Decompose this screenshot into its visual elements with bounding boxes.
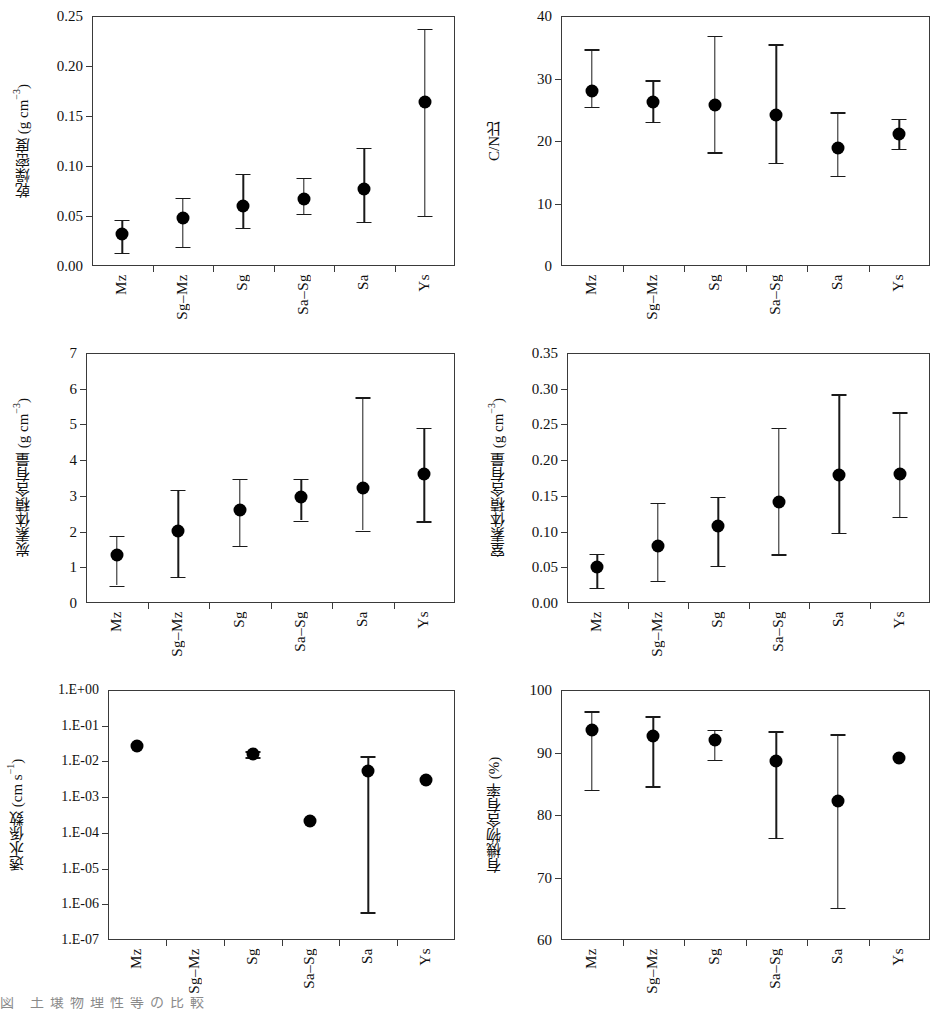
- data-point-marker: [831, 141, 844, 154]
- error-bar-cap-lower: [892, 149, 907, 150]
- error-bar-cap-lower: [769, 163, 784, 164]
- y-tick-label: 1.E-07: [61, 932, 99, 948]
- x-tick-mark: [166, 940, 167, 946]
- y-tick-label: 1.E-01: [61, 718, 99, 734]
- y-tick-label: 80: [537, 807, 552, 824]
- y-tick-mark: [102, 833, 108, 834]
- x-tick-label: Mz: [128, 948, 145, 969]
- error-bar-cap-lower: [355, 531, 370, 532]
- error-bar-cap-lower: [357, 222, 372, 223]
- error-bar-line: [837, 734, 838, 907]
- error-bar-cap-upper: [650, 503, 665, 504]
- x-tick-mark: [746, 266, 747, 272]
- x-tick-label: Sg: [706, 274, 723, 291]
- y-tick-mark: [102, 797, 108, 798]
- error-bar-cap-upper: [892, 412, 907, 413]
- y-axis-title: 有機物含有率 (%): [487, 690, 502, 940]
- y-tick-label: 0.15: [532, 487, 558, 504]
- x-tick-label: Sg: [231, 611, 248, 628]
- y-tick-label: 0: [70, 595, 78, 612]
- data-point-marker: [712, 519, 725, 532]
- error-bar-line: [776, 731, 777, 837]
- chart-panel-middle-right: 0.000.050.100.150.200.250.300.35窒素体積含有量 …: [475, 337, 950, 674]
- error-bar-line: [368, 756, 369, 912]
- error-bar-cap-lower: [361, 912, 376, 913]
- y-tick-label: 1.E-06: [61, 896, 99, 912]
- x-tick-label: Ys: [891, 611, 908, 629]
- y-tick-label: 0.25: [57, 8, 83, 25]
- y-axis-title-text: 乾燥密度 (g cm−3): [12, 84, 31, 198]
- error-bar-cap-upper: [646, 716, 661, 717]
- data-point-marker: [651, 539, 664, 552]
- y-tick-label: 1.E-05: [61, 861, 99, 877]
- data-point-marker: [831, 795, 844, 808]
- data-point-marker: [362, 765, 375, 778]
- y-tick-label: 0.05: [532, 559, 558, 576]
- y-tick-label: 1.E-03: [61, 789, 99, 805]
- error-bar-cap-upper: [115, 220, 130, 221]
- y-tick-label: 0.25: [532, 416, 558, 433]
- y-tick-label: 0.20: [57, 58, 83, 75]
- plot-area: [108, 690, 455, 940]
- error-bar-cap-lower: [232, 546, 247, 547]
- y-tick-mark: [561, 532, 567, 533]
- error-bar-cap-upper: [707, 36, 722, 37]
- y-tick-label: 0.10: [532, 523, 558, 540]
- error-bar-cap-lower: [711, 566, 726, 567]
- x-tick-label: Sg–Mz: [644, 948, 661, 994]
- data-point-marker: [172, 524, 185, 537]
- data-point-marker: [110, 548, 123, 561]
- y-tick-label: 0.30: [532, 380, 558, 397]
- x-tick-label: Mz: [108, 611, 125, 632]
- y-tick-mark: [86, 116, 92, 117]
- y-axis-title-exponent: −3: [11, 89, 22, 100]
- error-bar-cap-lower: [175, 247, 190, 248]
- y-axis-title: C/N比: [487, 16, 502, 266]
- data-point-marker: [708, 98, 721, 111]
- y-tick-label: 4: [70, 452, 78, 469]
- x-tick-mark: [339, 940, 340, 946]
- plot-area: [561, 16, 930, 266]
- error-bar-cap-upper: [355, 397, 370, 398]
- chart-panel-bottom-right: 60708090100有機物含有率 (%)MzSg–MzSgSa–SgSaYs: [475, 674, 950, 1011]
- y-tick-mark: [555, 815, 561, 816]
- x-tick-mark: [395, 266, 396, 272]
- plot-area: [92, 16, 455, 266]
- x-tick-mark: [749, 603, 750, 609]
- data-point-marker: [418, 96, 431, 109]
- data-point-marker: [647, 730, 660, 743]
- x-tick-mark: [271, 603, 272, 609]
- x-tick-label: Sg: [244, 948, 261, 965]
- data-point-marker: [304, 814, 317, 827]
- y-tick-label: 2: [70, 523, 78, 540]
- x-tick-mark: [397, 940, 398, 946]
- y-tick-mark: [561, 567, 567, 568]
- y-axis-title-exponent: −3: [11, 404, 22, 415]
- x-tick-label: Sa: [829, 948, 846, 964]
- error-bar-cap-upper: [771, 428, 786, 429]
- error-bar-cap-lower: [109, 586, 124, 587]
- y-tick-mark: [80, 496, 86, 497]
- y-tick-mark: [555, 753, 561, 754]
- y-axis-title-text: 炭素体積含有量 (g cm−3): [12, 399, 31, 558]
- x-tick-label: Mz: [583, 274, 600, 295]
- x-tick-mark: [623, 940, 624, 946]
- x-tick-label: Sa: [359, 948, 376, 964]
- error-bar-cap-lower: [590, 588, 605, 589]
- y-tick-mark: [561, 460, 567, 461]
- x-tick-label: Sg–Mz: [174, 274, 191, 320]
- y-axis-title-exponent: −3: [486, 404, 497, 415]
- y-tick-label: 10: [537, 195, 552, 212]
- y-axis-title: 透水係数 (cm s−1): [6, 690, 25, 940]
- error-bar-cap-upper: [175, 198, 190, 199]
- x-tick-label: Mz: [588, 611, 605, 632]
- data-point-marker: [233, 503, 246, 516]
- x-tick-mark: [209, 603, 210, 609]
- error-bar-cap-upper: [832, 394, 847, 395]
- cropped-caption-text: 図 土壌物理性等の比較: [0, 997, 210, 1011]
- data-point-marker: [833, 469, 846, 482]
- y-tick-label: 0.15: [57, 108, 83, 125]
- data-point-marker: [772, 496, 785, 509]
- x-tick-mark: [807, 266, 808, 272]
- error-bar-cap-upper: [417, 29, 432, 30]
